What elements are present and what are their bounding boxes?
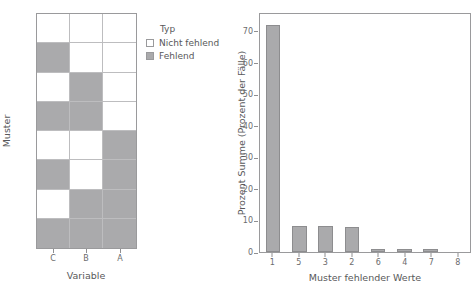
tick-dash-icon [431,253,432,257]
heatmap-cell-r3-A [103,73,136,102]
tick-dash-icon [53,249,54,253]
bar-2[interactable] [345,227,360,252]
bar-y-tick-label-60: 60 [243,59,253,68]
bar-3[interactable] [318,226,333,252]
bar-series [260,14,470,252]
missing-value-analysis-figure: Muster 1 2 3 4 5 6 7 8 [0,0,475,293]
bar-x-tick-label-3: 3 [323,258,328,267]
bar-y-tick-label-30: 30 [243,153,253,162]
heatmap-x-tick-label-b: B [83,254,89,263]
bar-slot-6 [365,14,391,252]
bar-1[interactable] [266,25,281,252]
tick-dash-icon [254,221,258,222]
heatmap-cell-r7-C [37,190,70,219]
heatmap-plot-area [36,13,137,249]
tick-dash-icon [272,253,273,257]
heatmap-cell-grid [37,14,136,248]
legend-label-nicht-fehlend: Nicht fehlend [159,38,219,48]
bar-slot-1 [260,14,286,252]
tick-dash-icon [254,126,258,127]
bar-slot-4 [391,14,417,252]
tick-dash-icon [254,158,258,159]
bar-y-tick-label-70: 70 [243,27,253,36]
bar-x-tick-label-6: 6 [376,258,381,267]
heatmap-cell-r8-C [37,219,70,248]
heatmap-cell-r6-A [103,160,136,189]
heatmap-y-axis-title: Muster [1,115,12,148]
tick-dash-icon [254,253,258,254]
heatmap-x-axis-title: Variable [67,270,105,281]
tick-dash-icon [254,189,258,190]
legend-item-fehlend: Fehlend [146,51,232,61]
heatmap-cell-r4-B [70,102,103,131]
bar-x-tick-label-8: 8 [455,258,460,267]
tick-dash-icon [254,31,258,32]
legend-label-fehlend: Fehlend [159,51,194,61]
bar-slot-5 [286,14,312,252]
legend-item-nicht-fehlend: Nicht fehlend [146,38,232,48]
tick-dash-icon [325,253,326,257]
legend: Typ Nicht fehlend Fehlend [146,24,232,64]
bar-x-axis-title: Muster fehlender Werte [309,272,421,283]
heatmap-cell-r3-B [70,73,103,102]
bar-5[interactable] [292,226,307,252]
bar-slot-7 [418,14,444,252]
heatmap-cell-r5-A [103,131,136,160]
bar-y-tick-label-20: 20 [243,185,253,194]
bar-x-tick-8: 8 [445,253,472,267]
heatmap-cell-r5-C [37,131,70,160]
bar-slot-3 [313,14,339,252]
bar-y-tick-label-50: 50 [243,90,253,99]
heatmap-cell-r7-A [103,190,136,219]
legend-title: Typ [160,24,232,34]
bar-x-tick-1: 1 [259,253,286,267]
tick-dash-icon [404,253,405,257]
heatmap-cell-r7-B [70,190,103,219]
bar-x-tick-5: 5 [286,253,313,267]
tick-dash-icon [254,63,258,64]
bar-x-tick-label-4: 4 [402,258,407,267]
heatmap-cell-r1-A [103,14,136,43]
bar-x-tick-label-1: 1 [270,258,275,267]
bar-plot-area [259,13,471,253]
heatmap-cell-r5-B [70,131,103,160]
heatmap-cell-r4-A [103,102,136,131]
heatmap-x-tick-label-c: C [50,254,56,263]
heatmap-cell-r4-C [37,102,70,131]
bar-x-tick-2: 2 [339,253,366,267]
tick-dash-icon [457,253,458,257]
bar-x-tick-4: 4 [392,253,419,267]
heatmap-cell-r6-B [70,160,103,189]
tick-dash-icon [254,95,258,96]
bar-6[interactable] [371,249,386,252]
bar-y-tick-label-40: 40 [243,122,253,131]
bar-y-tick-label-0: 0 [248,248,253,257]
pattern-heatmap-panel: Muster 1 2 3 4 5 6 7 8 [0,0,235,293]
heatmap-cell-r8-A [103,219,136,248]
tick-dash-icon [298,253,299,257]
missing-pattern-bar-panel: Prozent Summe (Prozent der Fälle) 010203… [235,0,475,293]
bar-x-tick-label-7: 7 [429,258,434,267]
heatmap-cell-r6-C [37,160,70,189]
bar-4[interactable] [397,249,412,252]
bar-x-tick-7: 7 [418,253,445,267]
tick-dash-icon [120,249,121,253]
heatmap-cell-r1-C [37,14,70,43]
bar-x-tick-3: 3 [312,253,339,267]
heatmap-cell-r2-B [70,43,103,72]
bar-7[interactable] [423,249,438,252]
legend-swatch-missing-icon [146,52,154,60]
heatmap-cell-r1-B [70,14,103,43]
heatmap-x-tick-label-a: A [117,254,122,263]
bar-x-axis-ticks: 15326478 [259,253,471,267]
heatmap-cell-r2-C [37,43,70,72]
heatmap-cell-r3-C [37,73,70,102]
heatmap-cell-r2-A [103,43,136,72]
bar-slot-8 [444,14,470,252]
bar-y-tick-label-10: 10 [243,216,253,225]
tick-dash-icon [351,253,352,257]
tick-dash-icon [378,253,379,257]
bar-x-tick-label-2: 2 [349,258,354,267]
bar-slot-2 [339,14,365,252]
heatmap-cell-r8-B [70,219,103,248]
